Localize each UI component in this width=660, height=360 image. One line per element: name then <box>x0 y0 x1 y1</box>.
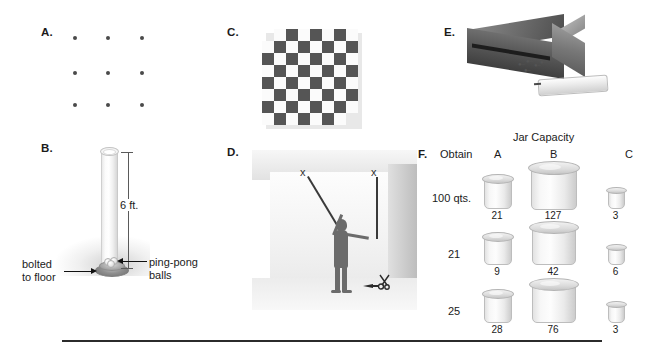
back-wall <box>270 172 388 290</box>
dot <box>140 103 144 107</box>
panel-letter-b: B. <box>41 142 53 154</box>
checker-square <box>310 29 322 41</box>
dot <box>140 71 144 75</box>
checker-square <box>334 53 346 65</box>
jar-rim <box>606 301 627 308</box>
row-obtain-2: 21 <box>448 248 460 260</box>
checker-square <box>298 41 310 53</box>
checker-square <box>298 77 310 89</box>
checker-square <box>346 29 358 41</box>
dot <box>106 36 110 40</box>
bolted-label-line2: to floor <box>22 271 56 284</box>
checker-square <box>286 53 298 65</box>
person-foot-right <box>342 290 352 293</box>
tack-icon: ●– <box>526 58 533 64</box>
ping-pong-label-line1: ping-pong <box>149 256 198 269</box>
checker-square <box>334 65 346 77</box>
jar-highlight <box>540 224 560 229</box>
checker-square <box>298 53 310 65</box>
panel-letter-c: C. <box>227 26 239 38</box>
panel-letter-d: D. <box>227 146 239 158</box>
dot <box>106 71 110 75</box>
checker-square <box>310 53 322 65</box>
checker-square <box>310 77 322 89</box>
checker-square <box>310 113 322 125</box>
dot <box>73 36 77 40</box>
checker-square <box>298 65 310 77</box>
obtain-header: Obtain <box>440 148 472 160</box>
jar-b-3 <box>532 283 574 321</box>
checkerboard <box>262 29 358 125</box>
ping-pong-label-line2: balls <box>149 269 172 282</box>
jar-highlight <box>539 164 561 170</box>
jar-capacity-title: Jar Capacity <box>513 131 574 143</box>
jar-c-value-1: 3 <box>608 210 623 221</box>
ball <box>107 260 115 268</box>
checker-square <box>346 101 358 113</box>
person-leg-right <box>342 264 347 292</box>
string-right <box>376 177 378 239</box>
panel-letter-e: E. <box>444 26 455 38</box>
bolted-label-line1: bolted <box>22 258 52 271</box>
tack-icon: ●– <box>540 59 547 65</box>
ping-pong-arrow-shaft <box>122 261 147 262</box>
checker-square <box>310 101 322 113</box>
checker-square <box>262 113 274 125</box>
panel-letter-f: F. <box>418 148 427 160</box>
jar-a-value-2: 9 <box>484 266 510 277</box>
checker-square <box>322 89 334 101</box>
jar-a-value-1: 21 <box>484 210 510 221</box>
jar-highlight <box>489 176 503 180</box>
dimension-tick-top <box>121 152 133 153</box>
tack-icon: ●– <box>524 67 531 73</box>
checker-square <box>274 53 286 65</box>
row-obtain-3: 25 <box>448 305 460 317</box>
checker-square <box>346 53 358 65</box>
jar-a-2 <box>484 235 510 263</box>
checker-square <box>334 41 346 53</box>
person-leg-left <box>335 264 340 292</box>
jar-c-value-3: 3 <box>608 324 623 335</box>
checker-square <box>298 89 310 101</box>
glass-tube <box>101 151 118 270</box>
jar-highlight <box>489 291 503 295</box>
checker-square <box>262 65 274 77</box>
checker-square <box>346 41 358 53</box>
checker-square <box>262 77 274 89</box>
checker-square <box>346 77 358 89</box>
column-header-a: A <box>494 148 501 160</box>
checker-square <box>322 77 334 89</box>
checker-square <box>274 65 286 77</box>
person-foot-left <box>331 290 341 293</box>
checker-square <box>274 113 286 125</box>
checker-square <box>286 113 298 125</box>
jar-a-3 <box>484 292 510 321</box>
checker-square <box>334 113 346 125</box>
candle <box>537 75 608 97</box>
bolted-arrow-head <box>91 268 97 274</box>
jar-b-value-1: 127 <box>531 210 575 221</box>
figure-canvas: A. B. 6 ft. bolted to floor ping-pong ba… <box>0 0 660 360</box>
checker-square <box>262 41 274 53</box>
jar-highlight <box>489 234 503 238</box>
checker-square <box>346 89 358 101</box>
column-header-b: B <box>550 148 557 160</box>
checker-square <box>286 65 298 77</box>
bottom-rule <box>62 340 602 342</box>
checker-square <box>274 29 286 41</box>
ping-pong-balls <box>104 257 118 265</box>
checker-square <box>298 113 310 125</box>
dimension-label: 6 ft. <box>118 199 140 211</box>
checker-square <box>322 113 334 125</box>
jar-b-value-2: 42 <box>532 266 574 277</box>
jar-c-2 <box>608 246 623 263</box>
checker-square <box>334 29 346 41</box>
checker-square <box>334 89 346 101</box>
column-header-c: C <box>625 148 633 160</box>
checker-square <box>298 101 310 113</box>
tube-opening <box>103 149 116 155</box>
jar-c-value-2: 6 <box>608 266 623 277</box>
checker-square <box>274 77 286 89</box>
jar-c-3 <box>608 303 623 321</box>
checker-square <box>274 41 286 53</box>
